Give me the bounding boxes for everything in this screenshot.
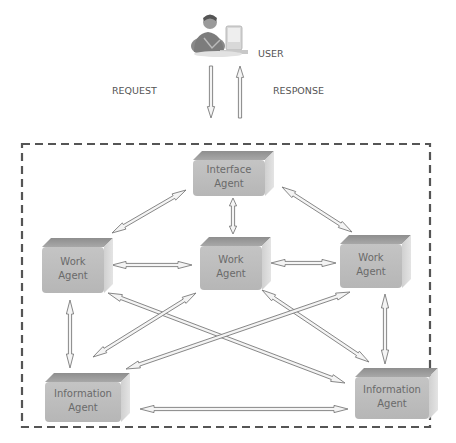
agent-label-line1: Work xyxy=(358,252,384,263)
agent-label-line1: Information xyxy=(363,384,421,395)
request-label: REQUEST xyxy=(112,85,157,96)
box-side-face xyxy=(429,368,438,419)
agent-box-work-left[interactable]: WorkAgent xyxy=(42,238,113,293)
agent-label-line2: Agent xyxy=(356,266,386,277)
agent-label-line2: Agent xyxy=(58,270,88,281)
arrow-work-center-to-info-right xyxy=(262,290,369,362)
arrow-user-to-interface xyxy=(207,66,214,118)
arrow-interface-to-user xyxy=(236,66,243,118)
box-side-face xyxy=(262,237,271,290)
arrow-work-right-to-info-right xyxy=(381,294,388,364)
agent-box-interface[interactable]: InterfaceAgent xyxy=(193,151,274,196)
agent-boxes: InterfaceAgentWorkAgentWorkAgentWorkAgen… xyxy=(42,151,438,422)
response-label: RESPONSE xyxy=(273,85,324,96)
user-label: USER xyxy=(258,48,284,59)
arrow-interface-to-work-right xyxy=(282,187,352,232)
box-top-face xyxy=(200,237,271,246)
box-top-face xyxy=(193,151,274,160)
box-top-face xyxy=(355,368,438,377)
agent-label-line2: Agent xyxy=(68,402,98,413)
agent-label-line1: Work xyxy=(218,254,244,265)
agent-label-line1: Information xyxy=(54,388,112,399)
agent-box-work-right[interactable]: WorkAgent xyxy=(340,235,411,288)
arrow-interface-to-work-left xyxy=(112,190,186,233)
arrow-work-center-to-work-right xyxy=(271,259,336,266)
agent-label-line1: Interface xyxy=(207,164,252,175)
arrow-work-center-to-info-left xyxy=(93,293,196,357)
agent-box-info-right[interactable]: InformationAgent xyxy=(355,368,438,419)
agent-label-line2: Agent xyxy=(216,268,246,279)
agent-label-line2: Agent xyxy=(377,398,407,409)
arrow-work-right-to-info-left xyxy=(126,292,350,369)
agent-label-line1: Work xyxy=(60,256,86,267)
agent-label-line2: Agent xyxy=(214,178,244,189)
box-side-face xyxy=(402,235,411,288)
box-top-face xyxy=(42,238,113,247)
arrow-info-left-to-info-right xyxy=(140,405,348,412)
agent-architecture-diagram: USER REQUEST RESPONSE InterfaceAgentWork… xyxy=(0,0,456,443)
box-top-face xyxy=(340,235,411,244)
box-side-face xyxy=(104,238,113,293)
user-at-computer-icon xyxy=(191,15,248,58)
box-top-face xyxy=(45,373,130,382)
agent-box-work-center[interactable]: WorkAgent xyxy=(200,237,271,290)
arrow-interface-to-work-center xyxy=(229,198,236,234)
arrow-work-left-to-info-left xyxy=(66,300,73,368)
arrow-work-left-to-work-center xyxy=(112,261,192,268)
agent-box-info-left[interactable]: InformationAgent xyxy=(45,373,130,422)
